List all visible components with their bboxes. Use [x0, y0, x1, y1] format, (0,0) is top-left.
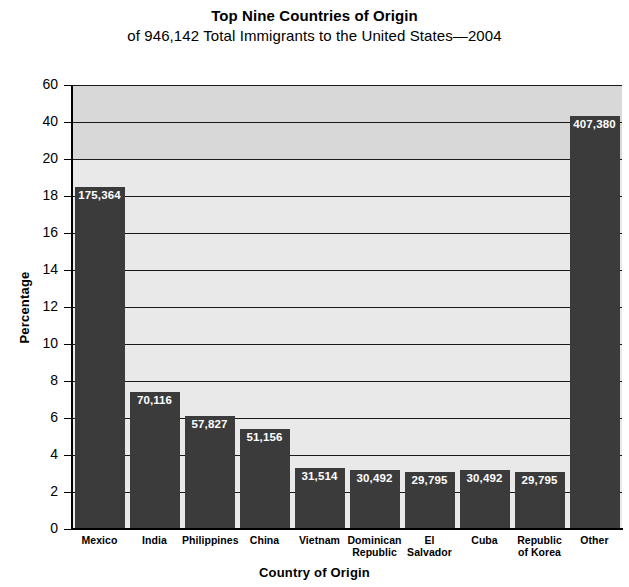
x-axis-tick-label-line: of Korea [512, 546, 567, 558]
x-axis-tick-label-line: Republic [347, 546, 402, 558]
y-axis-tick-label: 16 [8, 224, 58, 240]
y-axis-tick-label: 18 [8, 187, 58, 203]
bar-value-label: 30,492 [460, 472, 510, 484]
y-axis-tick [64, 381, 71, 382]
y-axis-tick [64, 307, 71, 308]
x-axis-tick-label-line: Dominican [347, 534, 402, 546]
bar[interactable]: 70,116 [130, 392, 180, 529]
bar[interactable]: 29,795 [405, 472, 455, 529]
y-axis-tick-label: 4 [8, 446, 58, 462]
bar-value-label: 29,795 [405, 474, 455, 486]
gridline [72, 85, 622, 86]
bar[interactable]: 57,827 [185, 416, 235, 529]
y-axis-tick [64, 418, 71, 419]
y-axis-tick [64, 233, 71, 234]
page-title: Top Nine Countries of Origin [0, 6, 629, 25]
gridline [72, 381, 622, 382]
y-axis-tick-label: 12 [8, 298, 58, 314]
x-axis-line [71, 528, 623, 530]
bar-value-label: 31,514 [295, 470, 345, 482]
bar-value-label: 407,380 [570, 118, 620, 130]
y-axis-tick-label: 2 [8, 483, 58, 499]
x-axis-tick-label: Mexico [72, 534, 127, 546]
bar-value-label: 175,364 [75, 189, 125, 201]
plot-area: 175,36470,11657,82751,15631,51430,49229,… [72, 85, 622, 529]
bar[interactable]: 30,492 [460, 470, 510, 529]
bar-value-label: 51,156 [240, 431, 290, 443]
bar-value-label: 57,827 [185, 418, 235, 430]
bar-value-label: 29,795 [515, 474, 565, 486]
y-axis-tick [64, 344, 71, 345]
y-axis-tick-label: 0 [8, 520, 58, 536]
y-axis-tick [64, 455, 71, 456]
y-axis-tick-label: 8 [8, 372, 58, 388]
x-axis-tick-label-line: India [127, 534, 182, 546]
y-axis-tick [64, 85, 71, 86]
y-axis-tick-label: 60 [8, 76, 58, 92]
x-axis-tick-label: Cuba [457, 534, 512, 546]
y-axis-tick [64, 270, 71, 271]
gridline [72, 196, 622, 197]
gridline [72, 233, 622, 234]
x-axis-tick-label: India [127, 534, 182, 546]
bar[interactable]: 175,364 [75, 187, 125, 529]
x-axis-tick-label: Republicof Korea [512, 534, 567, 558]
bar-value-label: 30,492 [350, 472, 400, 484]
y-axis-tick [64, 529, 71, 530]
x-axis-tick-label-line: Other [567, 534, 622, 546]
gridline [72, 122, 622, 123]
y-axis-tick [64, 122, 71, 123]
bar[interactable]: 31,514 [295, 468, 345, 529]
chart-title-block: Top Nine Countries of Origin of 946,142 … [0, 6, 629, 46]
x-axis-tick-label-line: Philippines [182, 534, 237, 546]
x-axis-tick-label-line: Republic [512, 534, 567, 546]
x-axis-tick-label-line: China [237, 534, 292, 546]
x-axis-tick-label-line: Mexico [72, 534, 127, 546]
x-axis-tick-label: China [237, 534, 292, 546]
y-axis-tick [64, 492, 71, 493]
bar[interactable]: 407,380 [570, 116, 620, 529]
x-axis-tick-label: DominicanRepublic [347, 534, 402, 558]
gridline [72, 344, 622, 345]
x-axis-tick-label: Other [567, 534, 622, 546]
y-axis-line [71, 85, 73, 530]
y-axis-tick-label: 40 [8, 113, 58, 129]
y-axis-tick-label: 6 [8, 409, 58, 425]
gridline [72, 270, 622, 271]
bar-value-label: 70,116 [130, 394, 180, 406]
y-axis-tick [64, 196, 71, 197]
y-axis-tick-label: 20 [8, 150, 58, 166]
bar[interactable]: 30,492 [350, 470, 400, 529]
gridline [72, 159, 622, 160]
y-axis-tick-label: 14 [8, 261, 58, 277]
x-axis-tick-label: El Salvador [402, 534, 457, 558]
x-axis-tick-label: Philippines [182, 534, 237, 546]
y-axis-tick-label: 10 [8, 335, 58, 351]
bar[interactable]: 29,795 [515, 472, 565, 529]
gridline [72, 307, 622, 308]
x-axis-tick-label-line: El Salvador [402, 534, 457, 558]
x-axis-title: Country of Origin [0, 565, 629, 580]
x-axis-tick-label-line: Vietnam [292, 534, 347, 546]
chart-subtitle: of 946,142 Total Immigrants to the Unite… [0, 25, 629, 46]
y-axis-tick [64, 159, 71, 160]
x-axis-tick-label: Vietnam [292, 534, 347, 546]
bar[interactable]: 51,156 [240, 429, 290, 529]
x-axis-tick-label-line: Cuba [457, 534, 512, 546]
